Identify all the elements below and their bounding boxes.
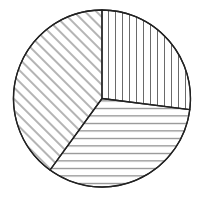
pie-chart	[0, 0, 201, 198]
pie-slice-vertical	[102, 10, 191, 110]
